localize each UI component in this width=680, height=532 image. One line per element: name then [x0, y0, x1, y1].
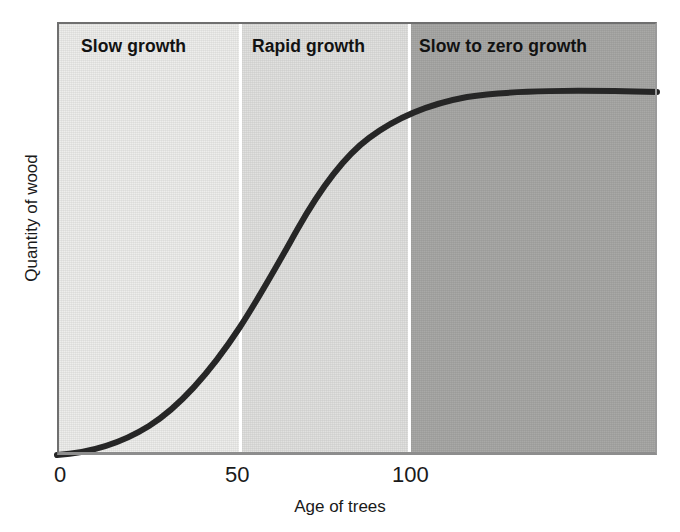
growth-curve-figure: Slow growth Rapid growth Slow to zero gr…: [0, 0, 680, 532]
x-axis-title: Age of trees: [0, 497, 680, 517]
growth-curve-line: [57, 22, 657, 455]
x-tick-label-100: 100: [392, 462, 429, 488]
x-tick-label-50: 50: [225, 462, 249, 488]
region-label-rapid-growth: Rapid growth: [252, 36, 365, 57]
x-tick-label-0: 0: [54, 462, 66, 488]
region-label-slow-growth: Slow growth: [81, 36, 186, 57]
region-label-slow-to-zero-growth: Slow to zero growth: [419, 36, 587, 57]
y-axis-title: Quantity of wood: [22, 98, 42, 338]
